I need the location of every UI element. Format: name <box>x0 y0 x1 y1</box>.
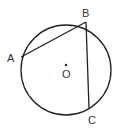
label-a: A <box>7 52 15 64</box>
label-o: O <box>62 68 71 80</box>
center-point-o <box>65 64 67 66</box>
label-c: C <box>88 114 96 126</box>
chord-bc <box>86 22 89 108</box>
label-b: B <box>82 7 89 19</box>
circle-diagram: A B C O <box>0 0 117 131</box>
